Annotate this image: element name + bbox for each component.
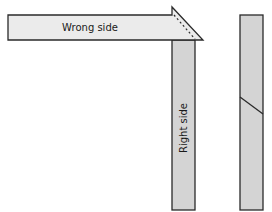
right-side-label: Right side	[178, 103, 189, 153]
diagram-canvas: Wrong side Right side	[0, 0, 272, 212]
second-strip	[240, 15, 263, 210]
wrong-side-label: Wrong side	[62, 22, 118, 33]
